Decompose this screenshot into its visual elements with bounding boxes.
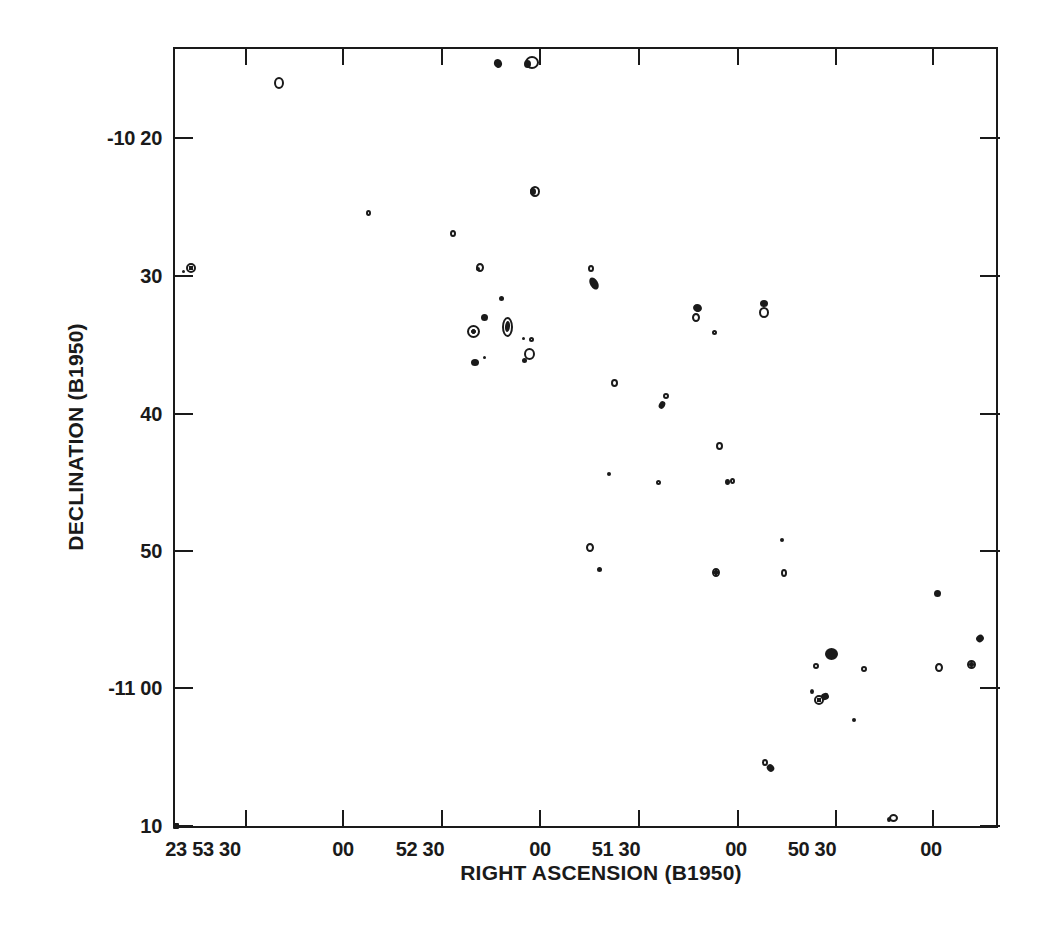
contour-source <box>588 265 594 272</box>
contour-source <box>182 270 185 273</box>
contour-source <box>725 479 730 485</box>
contour-source <box>781 569 787 577</box>
contour-source <box>780 538 784 542</box>
contour-source <box>597 567 602 572</box>
contour-source <box>471 359 479 366</box>
x-tick-label: 23 53 30 <box>165 838 240 860</box>
contour-source <box>611 379 618 387</box>
contour-source <box>810 689 814 694</box>
contour-source <box>712 568 720 577</box>
contour-source <box>467 325 480 338</box>
x-tick-top <box>342 47 344 65</box>
contour-source <box>861 666 867 672</box>
x-tick-bottom <box>342 810 344 828</box>
contour-source <box>813 663 819 669</box>
x-tick-top <box>932 47 934 65</box>
y-tick-right <box>980 687 1000 689</box>
y-tick-label: -10 20 <box>54 127 162 149</box>
x-tick-bottom <box>932 810 934 828</box>
contour-source <box>173 823 179 829</box>
contour-source <box>663 393 669 399</box>
y-tick-label: 10 <box>54 815 162 837</box>
y-axis-title: DECLINATION (B1950) <box>64 323 88 550</box>
x-tick-top <box>638 47 640 65</box>
contour-source <box>887 817 891 822</box>
y-tick-right <box>980 550 1000 552</box>
x-tick-label: 52 30 <box>396 838 445 860</box>
x-tick-top <box>539 47 541 65</box>
x-tick-bottom <box>441 810 443 828</box>
x-tick-label: 00 <box>725 838 747 860</box>
contour-source <box>730 478 735 484</box>
x-tick-bottom <box>737 810 739 828</box>
contour-source <box>522 358 527 363</box>
contour-source <box>483 356 486 359</box>
x-tick-top <box>737 47 739 65</box>
x-tick-label: 00 <box>529 838 551 860</box>
contour-source <box>524 60 531 68</box>
y-tick-left <box>173 550 193 552</box>
contour-source <box>274 77 284 89</box>
y-tick-label: 30 <box>54 265 162 287</box>
x-tick-label: 51 30 <box>592 838 641 860</box>
x-axis-title: RIGHT ASCENSION (B1950) <box>460 861 742 885</box>
contour-source <box>825 648 838 660</box>
contour-source <box>692 313 700 322</box>
x-tick-top <box>835 47 837 65</box>
plot-frame <box>173 47 998 828</box>
contour-source <box>716 442 723 450</box>
contour-source <box>656 480 661 485</box>
contour-source <box>759 307 769 318</box>
contour-source <box>504 320 510 331</box>
x-tick-label: 00 <box>332 838 354 860</box>
y-tick-left <box>173 687 193 689</box>
contour-source <box>586 543 594 552</box>
contour-source <box>712 330 717 335</box>
contour-source <box>450 230 456 237</box>
contour-source <box>935 663 943 672</box>
y-tick-left <box>173 137 193 139</box>
contour-source <box>529 337 534 342</box>
y-tick-right <box>980 825 1000 827</box>
contour-source <box>476 267 480 271</box>
y-tick-right <box>980 137 1000 139</box>
y-tick-left <box>173 275 193 277</box>
contour-source <box>499 296 504 301</box>
contour-sky-map-figure: 23 53 300052 300051 300050 3000-10 20304… <box>0 0 1043 932</box>
y-tick-right <box>980 275 1000 277</box>
contour-source <box>934 590 941 597</box>
x-tick-bottom <box>245 810 247 828</box>
y-tick-right <box>980 413 1000 415</box>
contour-source <box>852 718 856 722</box>
contour-source <box>607 472 611 476</box>
x-tick-label: 50 30 <box>788 838 837 860</box>
contour-source <box>522 337 525 340</box>
contour-source <box>481 314 488 321</box>
contour-source <box>760 300 768 307</box>
x-tick-bottom <box>638 810 640 828</box>
x-tick-top <box>441 47 443 65</box>
x-tick-bottom <box>539 810 541 828</box>
x-tick-label: 00 <box>920 838 942 860</box>
y-tick-left <box>173 413 193 415</box>
y-tick-label: -11 00 <box>54 677 162 699</box>
contour-source <box>366 210 371 216</box>
contour-source <box>967 660 976 669</box>
contour-source <box>186 263 196 273</box>
contour-source <box>530 188 536 195</box>
x-tick-top <box>245 47 247 65</box>
x-tick-bottom <box>835 810 837 828</box>
